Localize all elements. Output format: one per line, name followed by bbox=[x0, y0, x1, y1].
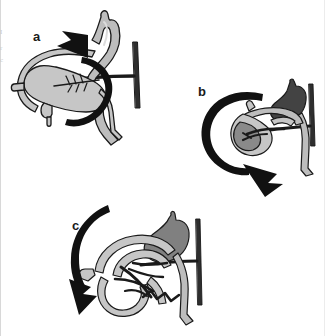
panel-a: a bbox=[0, 0, 170, 160]
arrowhead-c bbox=[69, 279, 97, 315]
appendix-a bbox=[47, 117, 51, 126]
panel-c: c bbox=[55, 205, 225, 336]
descending-limb-c bbox=[173, 253, 193, 325]
cecum-a bbox=[41, 103, 52, 118]
figure-root: I r c bbox=[0, 0, 325, 336]
panel-a-illustration bbox=[0, 0, 170, 160]
arrowhead-b bbox=[243, 164, 283, 197]
right-loop-b bbox=[271, 117, 295, 126]
upper-stub-b bbox=[246, 101, 255, 111]
panel-label-b: b bbox=[198, 85, 206, 98]
spine-bar-b bbox=[309, 84, 315, 146]
left-bowel-stub-a bbox=[11, 83, 24, 91]
panel-label-a: a bbox=[33, 30, 40, 43]
panel-c-illustration bbox=[55, 205, 225, 336]
panel-label-c: c bbox=[72, 219, 79, 232]
panel-b: b bbox=[185, 78, 325, 208]
panel-b-illustration bbox=[185, 78, 325, 208]
